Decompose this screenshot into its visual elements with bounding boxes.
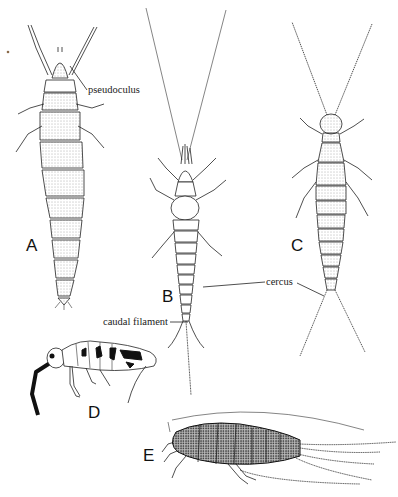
specimen-a: [16, 25, 104, 310]
panel-label-c: C: [291, 236, 303, 255]
cercus-leader-b: [203, 282, 265, 287]
panel-label-b: B: [162, 287, 173, 306]
speck: [7, 51, 10, 54]
annotation-cercus: cercus: [266, 276, 293, 287]
cercus-leader-c: [297, 283, 324, 296]
annotation-caudal-filament: caudal filament: [103, 316, 168, 327]
specimen-c: [292, 22, 372, 356]
caudal-filament-b: [186, 321, 191, 395]
specimen-b: [146, 8, 226, 395]
panel-label-e: E: [143, 446, 154, 465]
annotation-pseudoculus: pseudoculus: [88, 84, 140, 95]
hexapod-figure: A pseudoculus B: [0, 0, 398, 497]
panel-label-d: D: [88, 403, 100, 422]
panel-label-a: A: [26, 236, 38, 255]
specimen-e: [162, 412, 396, 484]
